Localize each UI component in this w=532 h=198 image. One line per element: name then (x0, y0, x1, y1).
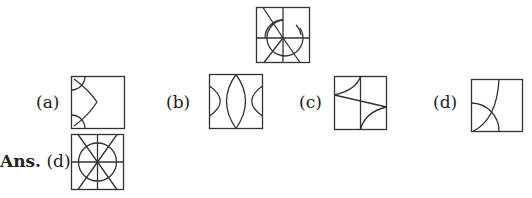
option-c-figure[interactable] (334, 76, 387, 130)
option-d-label: (d) (433, 92, 457, 112)
option-b-figure[interactable] (209, 74, 263, 129)
problem-figure (256, 7, 310, 63)
option-a-figure[interactable] (71, 76, 125, 129)
option-d-figure[interactable] (471, 79, 523, 132)
answer-choice: (d) (46, 151, 70, 171)
option-a-label: (a) (36, 92, 59, 112)
option-b-label: (b) (166, 92, 190, 112)
option-c-label: (c) (299, 92, 322, 112)
answer-prefix: Ans. (0, 151, 41, 171)
answer-figure (71, 134, 124, 190)
answer-label: Ans. (d) (0, 151, 71, 171)
